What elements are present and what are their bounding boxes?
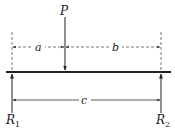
load-label: P <box>59 4 69 18</box>
dimension-b-label: b <box>112 41 119 54</box>
reaction-r1-label: R1 <box>5 113 20 129</box>
reaction-r2-label: R2 <box>155 113 170 129</box>
dimension-c-label: c <box>81 94 87 107</box>
dimension-a-label: a <box>35 41 42 54</box>
beam-diagram: P a b c R1 R2 <box>0 0 175 136</box>
